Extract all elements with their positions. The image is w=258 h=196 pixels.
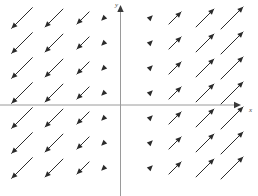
x-axis-arrowhead [234,102,241,108]
arrow-grid [11,7,243,180]
field-arrow [147,65,153,71]
field-arrow [45,134,63,152]
field-arrow [196,34,214,52]
field-arrow [196,59,214,77]
field-arrow [169,37,182,50]
field-arrow [169,162,182,175]
field-arrow [101,140,107,146]
field-arrow [77,62,90,75]
field-arrow [147,140,153,146]
field-arrow [77,112,90,125]
field-arrow [11,7,32,28]
field-arrow [45,84,63,102]
field-arrow [169,137,182,150]
arrow-head [101,65,107,71]
arrow-head [147,165,153,171]
field-arrow [11,107,32,128]
field-arrow [77,87,90,100]
field-arrow [147,115,153,121]
field-arrow [101,15,107,21]
arrow-head [101,90,107,96]
field-arrow [11,82,32,103]
field-arrow [196,134,214,152]
field-arrow [221,7,244,30]
field-arrow [221,132,244,155]
arrow-head [147,65,153,71]
field-arrow [147,40,153,46]
field-arrow [147,15,153,21]
arrow-head [147,40,153,46]
field-arrow [45,159,63,177]
field-arrow [196,9,214,27]
axes-group [0,5,241,196]
field-arrow [169,87,182,100]
x-axis-label: x [249,107,252,114]
field-arrow [101,90,107,96]
arrow-head [101,165,107,171]
field-arrow [221,157,244,180]
field-arrow [11,32,32,53]
arrow-head [147,15,153,21]
field-arrow [45,59,63,77]
field-arrow [77,162,90,175]
field-arrow [221,82,244,105]
arrow-head [147,140,153,146]
field-arrow [101,115,107,121]
field-arrow [77,137,90,150]
direction-field-chart: y x [0,0,258,196]
field-arrow [77,37,90,50]
arrow-head [147,115,153,121]
field-arrow [101,165,107,171]
field-arrow [11,57,32,78]
arrow-head [101,115,107,121]
field-arrow [196,159,214,177]
field-arrow [221,32,244,55]
field-arrow [196,84,214,102]
field-arrow [45,34,63,52]
field-arrow [147,90,153,96]
arrow-head [147,90,153,96]
field-arrow [101,40,107,46]
field-arrow [11,157,32,178]
field-arrow [11,132,32,153]
arrow-head [101,15,107,21]
field-arrow [221,107,244,130]
field-arrow [45,9,63,27]
y-axis-label: y [115,2,118,9]
field-arrow [169,12,182,25]
field-arrow [77,12,90,25]
y-axis-arrowhead [117,5,123,12]
arrow-head [101,40,107,46]
field-arrow [101,65,107,71]
arrow-head [101,140,107,146]
field-arrow [169,112,182,125]
field-arrow [45,109,63,127]
field-arrow [221,57,244,80]
field-arrow [196,109,214,127]
field-arrow [147,165,153,171]
field-arrow [169,62,182,75]
vector-field-canvas [0,0,258,196]
